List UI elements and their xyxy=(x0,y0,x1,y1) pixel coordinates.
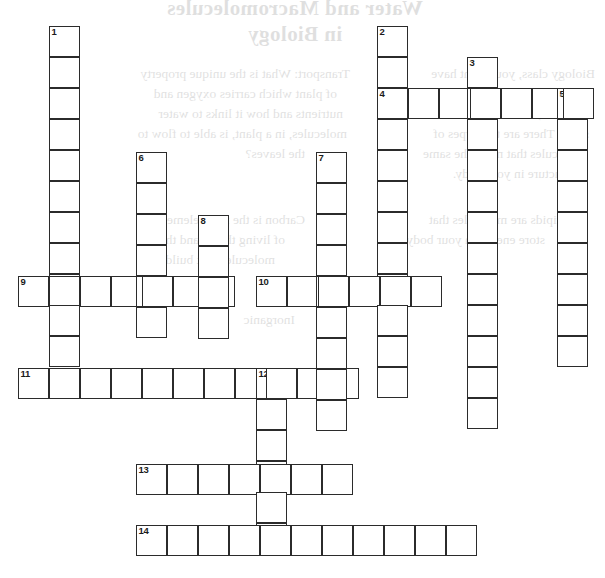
crossword-cell[interactable] xyxy=(49,243,80,274)
crossword-cell[interactable] xyxy=(260,525,291,556)
crossword-cell[interactable] xyxy=(49,336,80,367)
crossword-cell[interactable] xyxy=(563,88,594,119)
crossword-cell[interactable] xyxy=(446,525,477,556)
crossword-cell[interactable] xyxy=(316,245,347,276)
crossword-cell[interactable] xyxy=(266,368,297,399)
crossword-cell[interactable] xyxy=(467,336,498,367)
crossword-cell[interactable] xyxy=(557,212,588,243)
crossword-cell[interactable] xyxy=(49,305,80,336)
crossword-cell[interactable] xyxy=(229,464,260,495)
crossword-cell[interactable] xyxy=(467,212,498,243)
crossword-cell[interactable] xyxy=(380,276,411,307)
crossword-cell[interactable] xyxy=(198,246,229,277)
crossword-cell[interactable] xyxy=(318,276,349,307)
crossword-cell[interactable] xyxy=(316,369,347,400)
crossword-cell[interactable] xyxy=(49,119,80,150)
crossword-cell[interactable] xyxy=(467,274,498,305)
crossword-cell[interactable] xyxy=(557,119,588,150)
crossword-cell[interactable] xyxy=(198,464,229,495)
crossword-cell[interactable] xyxy=(49,276,80,307)
crossword-cell[interactable] xyxy=(287,276,318,307)
crossword-cell[interactable] xyxy=(256,430,287,461)
crossword-cell-start-9[interactable]: 9 xyxy=(18,276,49,307)
crossword-cell[interactable] xyxy=(136,183,167,214)
crossword-grid[interactable]: 1234567891011121314 xyxy=(0,0,605,578)
crossword-cell[interactable] xyxy=(49,150,80,181)
crossword-cell[interactable] xyxy=(467,181,498,212)
crossword-cell-start-2[interactable]: 2 xyxy=(377,26,408,57)
crossword-cell[interactable] xyxy=(316,400,347,431)
crossword-cell[interactable] xyxy=(322,464,353,495)
crossword-cell[interactable] xyxy=(316,183,347,214)
crossword-cell[interactable] xyxy=(167,525,198,556)
crossword-cell[interactable] xyxy=(316,214,347,245)
crossword-cell[interactable] xyxy=(557,150,588,181)
crossword-cell[interactable] xyxy=(198,308,229,339)
crossword-cell[interactable] xyxy=(322,525,353,556)
crossword-cell[interactable] xyxy=(557,305,588,336)
crossword-cell[interactable] xyxy=(439,88,470,119)
crossword-cell[interactable] xyxy=(291,464,322,495)
crossword-cell[interactable] xyxy=(316,338,347,369)
crossword-cell[interactable] xyxy=(467,398,498,429)
crossword-cell[interactable] xyxy=(557,336,588,367)
crossword-cell[interactable] xyxy=(467,119,498,150)
crossword-cell[interactable] xyxy=(49,212,80,243)
crossword-cell-start-13[interactable]: 13 xyxy=(136,464,167,495)
crossword-cell[interactable] xyxy=(557,181,588,212)
crossword-cell[interactable] xyxy=(377,336,408,367)
crossword-cell-start-7[interactable]: 7 xyxy=(316,152,347,183)
crossword-cell-start-3[interactable]: 3 xyxy=(467,57,498,88)
crossword-cell[interactable] xyxy=(557,243,588,274)
crossword-cell[interactable] xyxy=(291,525,322,556)
crossword-cell[interactable] xyxy=(377,119,408,150)
crossword-cell[interactable] xyxy=(80,276,111,307)
crossword-cell[interactable] xyxy=(470,88,501,119)
crossword-cell[interactable] xyxy=(260,464,291,495)
crossword-cell-start-1[interactable]: 1 xyxy=(49,26,80,57)
crossword-cell[interactable] xyxy=(467,305,498,336)
crossword-cell[interactable] xyxy=(142,276,173,307)
crossword-cell[interactable] xyxy=(377,57,408,88)
crossword-cell[interactable] xyxy=(111,368,142,399)
crossword-cell[interactable] xyxy=(377,150,408,181)
crossword-cell[interactable] xyxy=(136,307,167,338)
crossword-cell[interactable] xyxy=(467,367,498,398)
crossword-cell[interactable] xyxy=(173,368,204,399)
crossword-cell[interactable] xyxy=(415,525,446,556)
crossword-cell-start-11[interactable]: 11 xyxy=(18,368,49,399)
crossword-cell[interactable] xyxy=(377,305,408,336)
crossword-cell[interactable] xyxy=(49,368,80,399)
crossword-cell[interactable] xyxy=(256,399,287,430)
crossword-cell-start-14[interactable]: 14 xyxy=(136,525,167,556)
crossword-cell[interactable] xyxy=(353,525,384,556)
crossword-cell[interactable] xyxy=(377,212,408,243)
crossword-cell[interactable] xyxy=(49,88,80,119)
crossword-cell[interactable] xyxy=(467,243,498,274)
crossword-cell[interactable] xyxy=(377,243,408,274)
crossword-cell[interactable] xyxy=(142,368,173,399)
crossword-cell[interactable] xyxy=(167,464,198,495)
crossword-cell-start-10[interactable]: 10 xyxy=(256,276,287,307)
crossword-cell[interactable] xyxy=(557,274,588,305)
crossword-cell[interactable] xyxy=(384,525,415,556)
crossword-cell-start-6[interactable]: 6 xyxy=(136,152,167,183)
crossword-cell[interactable] xyxy=(229,525,260,556)
crossword-cell[interactable] xyxy=(198,525,229,556)
crossword-cell[interactable] xyxy=(411,276,442,307)
crossword-cell[interactable] xyxy=(204,368,235,399)
crossword-cell[interactable] xyxy=(467,150,498,181)
crossword-cell[interactable] xyxy=(377,367,408,398)
crossword-cell-start-8[interactable]: 8 xyxy=(198,215,229,246)
crossword-cell[interactable] xyxy=(49,181,80,212)
crossword-cell[interactable] xyxy=(408,88,439,119)
crossword-cell[interactable] xyxy=(136,245,167,276)
crossword-cell[interactable] xyxy=(377,181,408,212)
crossword-cell[interactable] xyxy=(198,277,229,308)
crossword-cell[interactable] xyxy=(316,307,347,338)
crossword-cell[interactable] xyxy=(501,88,532,119)
crossword-cell[interactable] xyxy=(349,276,380,307)
crossword-cell[interactable] xyxy=(136,214,167,245)
crossword-cell[interactable] xyxy=(49,57,80,88)
crossword-cell[interactable] xyxy=(256,492,287,523)
